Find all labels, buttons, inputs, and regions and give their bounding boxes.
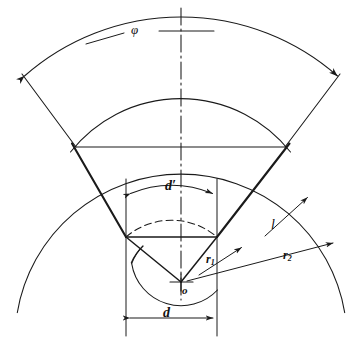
label-d-prime: d′ — [165, 179, 176, 193]
label-o: o — [182, 285, 188, 296]
label-r2-subscript: 2 — [288, 254, 292, 263]
inner-vertex-dashed-arc — [126, 220, 217, 237]
phi-leader-left — [22, 74, 76, 147]
phi-leader-right — [285, 74, 340, 147]
label-l: l — [271, 218, 275, 232]
sector-side-left — [72, 144, 126, 238]
label-r1: r1 — [206, 253, 215, 267]
radius-to-inner-left — [126, 237, 181, 282]
slant-length-arc — [33, 147, 76, 316]
sector-side-right — [217, 144, 290, 238]
label-r2: r2 — [283, 249, 292, 263]
label-r1-subscript: 1 — [211, 258, 215, 267]
label-phi: φ — [131, 23, 138, 36]
diagram-canvas: φ d′ d l o r1 r2 — [0, 0, 358, 346]
diagram-svg — [0, 0, 358, 346]
inner-radius-arc — [132, 264, 218, 306]
label-d: d — [163, 306, 170, 320]
